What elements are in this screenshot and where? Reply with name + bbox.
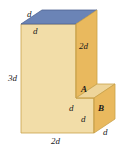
- label-bottom-width: 2d: [51, 137, 60, 146]
- label-step-height: d: [81, 115, 86, 124]
- label-right-side-face-B: B: [98, 104, 104, 113]
- label-step-width: d: [69, 104, 74, 113]
- label-left-height: 3d: [8, 74, 17, 83]
- label-bottom-right-depth: d: [103, 128, 108, 137]
- label-top-front-width: d: [33, 27, 38, 36]
- label-upper-right-height: 2d: [79, 42, 88, 51]
- label-step-top-face-A: A: [81, 85, 87, 94]
- block-svg: [0, 0, 119, 151]
- label-top-depth: d: [27, 10, 32, 19]
- lshaped-block-figure: d d 2d 3d A d d B d 2d: [0, 0, 119, 151]
